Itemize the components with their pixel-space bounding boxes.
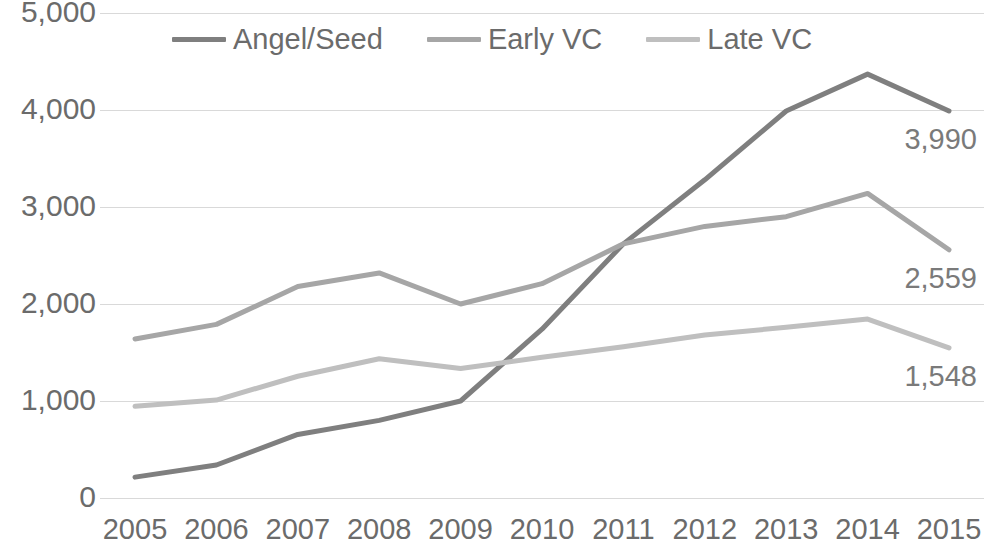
- legend-label-early-vc: Early VC: [488, 23, 602, 55]
- x-axis-tick-label: 2014: [835, 512, 900, 546]
- x-axis-tick-label: 2007: [266, 512, 331, 546]
- x-axis: 2005200620072008200920102011201220132014…: [100, 512, 984, 556]
- plot-area: [100, 13, 984, 498]
- x-axis-tick-label: 2013: [754, 512, 819, 546]
- legend-label-late-vc: Late VC: [707, 23, 812, 55]
- x-axis-tick-label: 2006: [184, 512, 249, 546]
- x-axis-tick-label: 2015: [917, 512, 982, 546]
- series-line-early-vc: [135, 193, 949, 339]
- legend-swatch-angel-seed: [172, 37, 226, 42]
- legend-swatch-early-vc: [427, 37, 481, 42]
- y-axis-tick-label: 1,000: [4, 385, 96, 415]
- series-lines: [100, 13, 984, 498]
- legend-item-angel-seed[interactable]: Angel/Seed: [172, 23, 383, 55]
- line-chart: 01,0002,0003,0004,0005,000 2005200620072…: [0, 0, 984, 556]
- y-axis-tick-label: 3,000: [4, 191, 96, 221]
- series-line-angel-seed: [135, 74, 949, 477]
- legend-item-late-vc[interactable]: Late VC: [646, 23, 812, 55]
- legend-swatch-late-vc: [646, 37, 700, 42]
- y-axis-tick-label: 4,000: [4, 94, 96, 124]
- legend-item-early-vc[interactable]: Early VC: [427, 23, 602, 55]
- x-axis-tick-label: 2008: [347, 512, 412, 546]
- x-axis-tick-label: 2005: [103, 512, 168, 546]
- legend-label-angel-seed: Angel/Seed: [233, 23, 383, 55]
- x-axis-tick-label: 2011: [592, 512, 654, 546]
- data-label-late-vc-2015: 1,548: [904, 360, 977, 392]
- x-axis-tick-label: 2010: [510, 512, 575, 546]
- y-axis: 01,0002,0003,0004,0005,000: [0, 0, 96, 556]
- y-axis-tick-label: 0: [4, 482, 96, 512]
- x-axis-tick-label: 2009: [428, 512, 493, 546]
- x-axis-tick-label: 2012: [673, 512, 738, 546]
- y-axis-tick-label: 2,000: [4, 288, 96, 318]
- data-label-angel-seed-2015: 3,990: [904, 123, 977, 155]
- gridline: [100, 498, 984, 499]
- data-label-early-vc-2015: 2,559: [904, 262, 977, 294]
- y-axis-tick-label: 5,000: [4, 0, 96, 27]
